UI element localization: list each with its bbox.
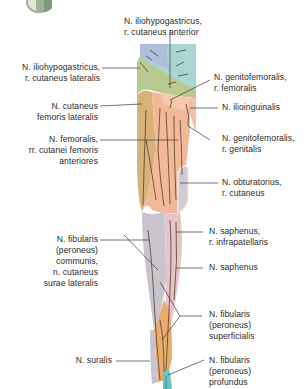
cropped-fragment-figure <box>26 0 52 13</box>
label-saphenus-infrapatellaris: N. saphenus, r. infrapatellaris <box>209 226 268 248</box>
label-saphenus: N. saphenus <box>209 262 258 273</box>
label-fibularis-communis: N. fibularis (peroneus) communis, n. cut… <box>4 234 98 289</box>
leg-innervation-diagram: N. iliohypogastricus, r. cutaneus anteri… <box>0 0 307 389</box>
label-obturatorius: N. obturatorius, r. cutaneus <box>222 177 282 199</box>
label-iliohypogastricus-lateral: N. iliohypogastricus, r. cutaneus latera… <box>14 62 100 84</box>
label-fibularis-superficialis: N. fibularis (peroneus) superficialis <box>209 309 255 342</box>
thigh <box>137 44 196 214</box>
label-fibularis-profundus: N. fibularis (peroneus) profundus <box>209 355 251 388</box>
lower-leg <box>142 212 182 389</box>
label-iliohypogastricus-anterior: N. iliohypogastricus, r. cutaneus anteri… <box>124 16 202 38</box>
label-genitofemoralis-femoralis: N. genitofemoralis, r. femoralis <box>214 72 287 94</box>
label-genitofemoralis-genitalis: N. genitofemoralis, r. genitalis <box>222 133 295 155</box>
label-femoralis: N. femoralis, rr. cutanei femoris anteri… <box>4 134 98 167</box>
label-cutaneus-femoris-lateralis: N. cutaneus femoris lateralis <box>14 101 98 123</box>
label-suralis: N. suralis <box>40 355 112 366</box>
label-ilioinguinalis: N. ilioinguinalis <box>222 102 280 113</box>
